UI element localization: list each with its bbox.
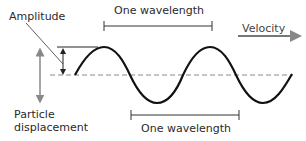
amplitude-indicator: [26, 23, 98, 72]
wavelength-label-bottom: One wavelength: [141, 122, 231, 135]
velocity-label: Velocity: [242, 22, 285, 35]
wavelength-bracket-top: [104, 21, 212, 31]
wavelength-label-top: One wavelength: [114, 4, 204, 17]
amplitude-leader-line: [26, 23, 63, 64]
particle-displacement-label: Particle displacement: [14, 108, 88, 134]
particle-displacement-line2: displacement: [14, 121, 88, 134]
wavelength-bracket-bottom: [131, 110, 239, 120]
wave-diagram: Amplitude One wavelength Velocity Partic…: [0, 0, 306, 141]
particle-displacement-line1: Particle: [14, 108, 88, 121]
amplitude-label: Amplitude: [9, 10, 65, 23]
